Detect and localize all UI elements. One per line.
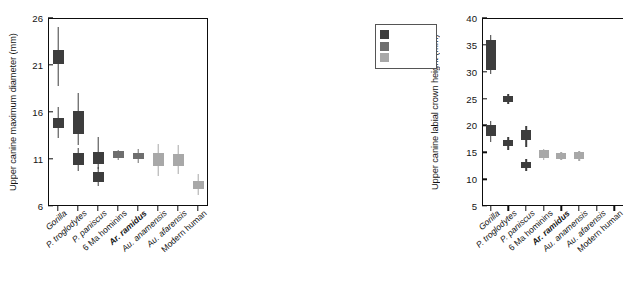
x-axis-labels-left: GorillaP. troglodytesP. paniscus6 Ma hom…	[48, 206, 208, 291]
box-plot-box	[153, 18, 164, 206]
box-plot-iqr	[53, 118, 64, 128]
y-tick-label: 16	[32, 107, 48, 118]
box-plot-iqr	[173, 154, 184, 165]
y-tick-label: 25	[466, 93, 482, 104]
y-axis-label-left: Upper canine maximum diameter (mm)	[8, 14, 18, 210]
legend-swatch	[380, 42, 389, 51]
legend-swatch	[380, 30, 389, 39]
box-plot-iqr	[93, 152, 104, 163]
box-plot-iqr	[539, 150, 549, 158]
box-plot-box	[556, 18, 566, 206]
box-plot-box	[113, 18, 124, 206]
y-tick-label: 21	[32, 60, 48, 71]
y-tick-label: 10	[466, 174, 482, 185]
box-plot-iqr	[556, 153, 566, 158]
x-axis-labels-right: GorillaP. troglodytesP. paniscus6 Ma hom…	[482, 206, 623, 291]
legend-item	[380, 30, 432, 39]
legend	[375, 24, 437, 69]
y-tick-label: 11	[33, 154, 48, 165]
legend-swatch	[380, 53, 389, 62]
box-plot-box	[73, 18, 84, 206]
box-plot-box	[193, 18, 204, 206]
plot-area-right: 510152025303540	[482, 18, 623, 206]
box-plot-iqr	[113, 151, 124, 158]
plot-area-left: 611162126	[48, 18, 208, 206]
y-tick-label: 20	[466, 120, 482, 131]
box-plot-box	[521, 18, 531, 206]
legend-item	[380, 53, 432, 62]
box-plot-box	[574, 18, 584, 206]
box-plot-box	[503, 18, 513, 206]
box-plot-iqr	[486, 125, 496, 136]
box-plot-iqr	[521, 130, 531, 141]
y-tick-label: 5	[472, 201, 482, 212]
box-plot-box	[486, 18, 496, 206]
box-plot-box	[173, 18, 184, 206]
box-plot-iqr	[73, 111, 84, 134]
y-tick-label: 30	[466, 66, 482, 77]
legend-item	[380, 42, 432, 51]
box-plot-box	[53, 18, 64, 206]
y-tick-label: 26	[32, 13, 48, 24]
box-plot-iqr	[153, 153, 164, 165]
box-plot-iqr	[574, 152, 584, 159]
panel-left-canine-diameter: Upper canine maximum diameter (mm) 61116…	[0, 0, 212, 291]
y-tick-label: 6	[38, 201, 48, 212]
box-plot-iqr	[503, 140, 513, 146]
box-plot-box	[93, 18, 104, 206]
box-plot-iqr	[193, 181, 204, 189]
y-tick-label: 35	[466, 39, 482, 50]
y-tick-label: 40	[466, 13, 482, 24]
box-plot-box	[133, 18, 144, 206]
box-plot-box	[539, 18, 549, 206]
box-plot-iqr	[133, 153, 144, 159]
y-tick-label: 15	[466, 147, 482, 158]
